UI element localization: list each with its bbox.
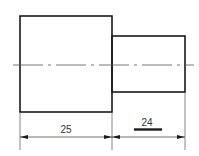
dimension-label-24: 24 — [141, 117, 153, 128]
technical-drawing: 25 24 — [0, 0, 199, 156]
small-cylinder-outline — [112, 36, 185, 92]
large-cylinder-outline — [20, 16, 112, 112]
dimension-label-25: 25 — [60, 124, 72, 135]
